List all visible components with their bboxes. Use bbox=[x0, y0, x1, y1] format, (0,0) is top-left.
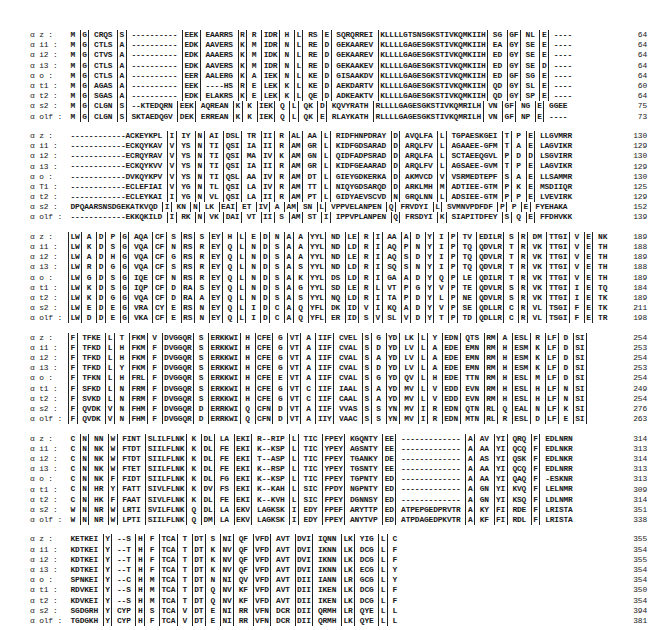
residue-segment: LV bbox=[402, 353, 416, 363]
conserved-box: R bbox=[518, 283, 528, 293]
residue-position: 394 bbox=[613, 606, 647, 616]
residue-segment: K bbox=[208, 565, 218, 575]
residue-segment: A bbox=[296, 252, 306, 262]
conserved-box: F bbox=[531, 495, 541, 505]
residue-segment: TIC bbox=[301, 474, 320, 484]
conserved-box: TCA bbox=[159, 534, 178, 544]
alignment-row: α s2 :LWEDEGVRACYERSNEYQLIDCAQYFLDKIDVIK… bbox=[30, 303, 650, 313]
conserved-box: N bbox=[195, 151, 205, 161]
residue-segment: QV bbox=[402, 373, 416, 383]
conserved-box: YYL bbox=[308, 293, 327, 303]
residue-segment: R bbox=[277, 192, 287, 202]
residue-segment: TQ bbox=[460, 242, 474, 252]
conserved-box: YFL bbox=[308, 313, 327, 323]
residue-segment: NGPNTY bbox=[348, 484, 381, 494]
residue-segment: K bbox=[533, 343, 543, 353]
residue-segment: N bbox=[272, 232, 282, 242]
residue-segment: TIC bbox=[301, 434, 320, 444]
residue-segment: E bbox=[208, 616, 218, 626]
residue-segment: AA bbox=[477, 444, 491, 454]
conserved-box: L bbox=[378, 606, 388, 616]
residue-segment: M bbox=[68, 50, 78, 60]
conserved-box: E bbox=[539, 40, 549, 50]
residue-segment: VT bbox=[385, 283, 399, 293]
residue-position: 354 bbox=[613, 575, 647, 585]
conserved-box: L bbox=[418, 384, 428, 394]
conserved-box: S bbox=[117, 101, 127, 111]
conserved-box: EKI bbox=[234, 444, 253, 454]
residue-segment: Q bbox=[278, 101, 288, 111]
conserved-box: IDR bbox=[261, 61, 280, 71]
conserved-box: LF bbox=[545, 353, 559, 363]
residue-segment: E bbox=[169, 313, 179, 323]
conserved-box: VFD bbox=[253, 545, 272, 555]
residue-segment: VT bbox=[244, 212, 258, 222]
sequence-residues: CNNKWFTETSIILFLNKKDLFEEKIK--RSPLTICYPEYT… bbox=[68, 464, 613, 474]
alignment-row: α olf :WNNRWLPTISIILFLNKQDMLAEKVLAGKSKIE… bbox=[30, 515, 650, 525]
residue-segment: D bbox=[514, 151, 524, 161]
residue-segment: QTN bbox=[463, 404, 482, 414]
residue-segment: LLSAMMR bbox=[537, 172, 574, 182]
sequence-residues: FTFKDLHFKMFDVGGQRSERKKWIHCFEGVTAIIFCVALS… bbox=[68, 343, 613, 353]
conserved-box: D bbox=[260, 283, 270, 293]
residue-segment: ND bbox=[329, 242, 343, 252]
conserved-box: R bbox=[518, 262, 528, 272]
residue-segment: FTDT bbox=[120, 444, 143, 454]
residue-segment: A bbox=[272, 202, 282, 212]
alignment-row: α o :FTFKNLHFRLFDVGGQRSERKKWIHCFEEVTAIIF… bbox=[30, 373, 650, 383]
residue-segment: T bbox=[180, 555, 190, 565]
residue-position: 130 bbox=[613, 151, 647, 161]
alignment-row: α t2 :KDVKEIY--SHMTCATDTQNVKFVFDAVTDIIIK… bbox=[30, 596, 650, 606]
conserved-box: EE bbox=[382, 444, 396, 454]
conserved-box: DL bbox=[201, 495, 215, 505]
residue-segment: ---- bbox=[547, 112, 570, 122]
conserved-box: IIF bbox=[315, 333, 334, 343]
residue-segment: --KTEDQRN bbox=[129, 101, 175, 111]
residue-segment: C bbox=[68, 444, 78, 454]
residue-segment: FE bbox=[217, 464, 231, 474]
conserved-box: L bbox=[289, 495, 299, 505]
residue-segment: TQ bbox=[460, 262, 474, 272]
alignment-row: α i3 :FTFKDLYFKMFDVGGQRSERKKWIHCFEGVTAII… bbox=[30, 363, 650, 373]
residue-segment: VK bbox=[530, 283, 544, 293]
conserved-box: DT bbox=[192, 534, 206, 544]
residue-position: 189 bbox=[613, 293, 647, 303]
conserved-box: EKV bbox=[234, 515, 253, 525]
conserved-box: G bbox=[80, 30, 90, 40]
residue-segment: S bbox=[361, 313, 371, 323]
residue-segment: N bbox=[117, 404, 127, 414]
residue-segment: K bbox=[245, 112, 255, 122]
residue-segment: R bbox=[361, 252, 371, 262]
residue-segment: QAQ bbox=[510, 474, 529, 484]
conserved-box: DT bbox=[192, 575, 206, 585]
sequence-residues: WNNRWLRTISVILFLNKQDLLAEKVLAGKSKIEDYFPEFA… bbox=[68, 505, 613, 515]
conserved-box: L bbox=[418, 353, 428, 363]
residue-segment: N bbox=[169, 242, 179, 252]
conserved-box: D bbox=[96, 303, 106, 313]
conserved-box: SIILFLNK bbox=[145, 444, 187, 454]
conserved-box: IDR bbox=[261, 30, 280, 40]
residue-segment: VSRMEDTEPF bbox=[449, 172, 500, 182]
residue-segment: N bbox=[282, 71, 292, 81]
residue-segment: Q bbox=[243, 414, 253, 424]
residue-segment: QCQ bbox=[510, 444, 529, 454]
residue-segment: K bbox=[296, 273, 306, 283]
residue-segment: Q bbox=[225, 313, 235, 323]
conserved-box: N bbox=[80, 474, 90, 484]
residue-segment: AA bbox=[385, 232, 399, 242]
conserved-box: DVGGQR bbox=[162, 394, 195, 404]
conserved-box: EY bbox=[209, 283, 223, 293]
residue-segment: LAGKSK bbox=[255, 505, 288, 515]
residue-segment: N bbox=[197, 303, 207, 313]
sequence-name: α o : bbox=[30, 273, 68, 283]
residue-segment: K bbox=[208, 545, 218, 555]
conserved-box: ERKKWI bbox=[208, 394, 241, 404]
conserved-box: D bbox=[96, 262, 106, 272]
residue-segment: LV bbox=[402, 343, 416, 353]
conserved-box: EY bbox=[209, 293, 223, 303]
conserved-box: RM bbox=[484, 384, 498, 394]
conserved-box: G bbox=[80, 81, 90, 91]
residue-segment: FYEHAKA bbox=[533, 202, 570, 212]
conserved-box: FKM bbox=[129, 333, 148, 343]
residue-segment: NK bbox=[596, 232, 610, 242]
